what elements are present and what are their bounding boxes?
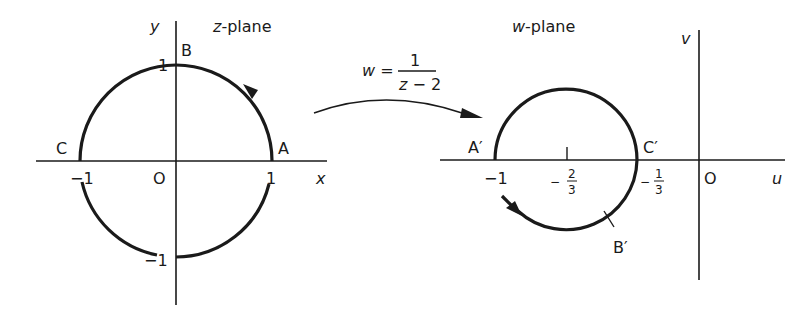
w-plane-title-var: w: [512, 17, 526, 36]
arc-c-to-bottom: [82, 182, 157, 255]
point-c-prime-label: C′: [643, 138, 658, 157]
mapping-arrow-icon: [460, 108, 483, 118]
arc-a-prime-to-c-prime: [495, 89, 637, 160]
tick-minus-one-third-den: 3: [655, 183, 663, 197]
tick-minus-one-third-sign: −: [640, 175, 650, 189]
w-plane-title-rest: -plane: [525, 17, 575, 36]
point-b-prime-label: B′: [613, 238, 628, 257]
point-a-label: A: [278, 139, 289, 158]
tick-y-neg: −1: [144, 251, 168, 270]
y-axis-label: y: [149, 17, 160, 36]
z-plane-title: z-plane: [212, 17, 272, 36]
mapping-numerator: 1: [410, 51, 420, 70]
v-axis-label: v: [681, 29, 691, 48]
w-plane-title: w-plane: [512, 17, 575, 36]
conformal-mapping-diagram: y z-plane B 1 C A −1 O 1 x −1 w = 1 z − …: [0, 0, 811, 321]
arc-c-prime-to-a-prime: [518, 160, 637, 230]
tick-y-pos: 1: [158, 56, 168, 75]
tick-minus-two-thirds-num: 2: [568, 167, 576, 181]
tick-x-pos: 1: [266, 169, 276, 188]
w-origin-label: O: [704, 169, 717, 188]
arc-bottom-to-a: [176, 184, 269, 257]
mapping-lhs: w =: [362, 61, 394, 80]
mapping-arrow-curve: [314, 100, 462, 113]
z-plane-title-rest: -plane: [221, 17, 271, 36]
w-plane: w-plane v A′ C′ −1 − 2 3 − 1 3 O u B′: [440, 17, 785, 280]
tick-minus-two-thirds-sign: −: [550, 175, 560, 189]
mapping-function: w = 1 z − 2: [314, 51, 483, 118]
z-plane: y z-plane B 1 C A −1 O 1 x −1: [36, 17, 327, 305]
point-b-label: B: [181, 41, 192, 60]
u-axis-label: u: [772, 169, 782, 188]
x-axis-label: x: [315, 169, 326, 188]
arc-a-to-b: [176, 65, 272, 161]
tick-minus-two-thirds-den: 3: [568, 183, 576, 197]
tick-minus-one: −1: [484, 169, 508, 188]
tick-x-neg: −1: [70, 169, 94, 188]
arc-b-to-c: [80, 65, 176, 161]
z-origin-label: O: [153, 169, 166, 188]
mapping-denominator: z − 2: [398, 75, 441, 94]
point-c-label: C: [56, 139, 67, 158]
tick-minus-one-third-num: 1: [655, 167, 663, 181]
point-a-prime-label: A′: [468, 138, 483, 157]
